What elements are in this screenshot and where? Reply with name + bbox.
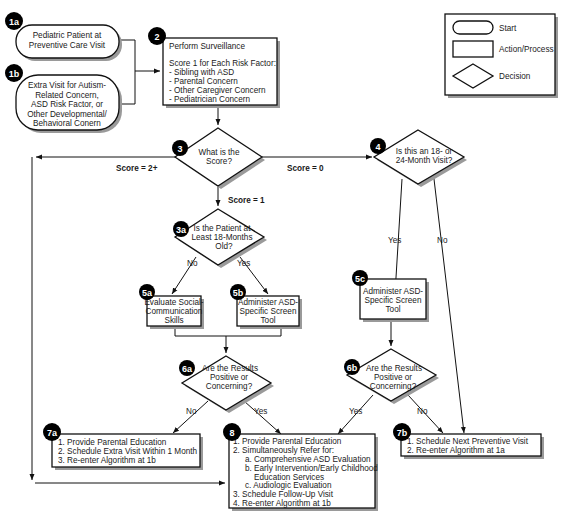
label-3a-no: No: [187, 259, 198, 268]
flowchart: Score = 2+ Score = 0 Score = 1 No Yes Ye…: [0, 0, 567, 520]
legend-action-label: Action/Process: [499, 45, 554, 54]
svg-text:Positive or: Positive or: [210, 373, 248, 382]
svg-text:Behavioral Conern: Behavioral Conern: [33, 119, 101, 128]
svg-text:Concerning?: Concerning?: [206, 382, 253, 391]
svg-text:8: 8: [229, 428, 234, 438]
svg-text:1. Schedule Next Preventive V: 1. Schedule Next Preventive Visit: [407, 437, 529, 446]
svg-text:- Sibling with ASD: - Sibling with ASD: [169, 68, 234, 77]
svg-text:3: 3: [177, 144, 182, 154]
node-3-decision-score: What is the Score? 3: [172, 128, 265, 189]
svg-text:Specific Screen: Specific Screen: [365, 296, 422, 305]
svg-text:1b: 1b: [9, 69, 20, 79]
svg-text:2: 2: [154, 32, 159, 42]
node-6b-decision-results: Are the Results Positive or Concerning? …: [344, 349, 439, 404]
legend-start-label: Start: [499, 24, 517, 33]
svg-text:7a: 7a: [47, 428, 58, 438]
node-1a-start: Pediatric Patient at Preventive Care Vis…: [5, 12, 122, 61]
svg-text:5b: 5b: [233, 288, 244, 298]
svg-text:4: 4: [375, 142, 380, 152]
svg-text:Old?: Old?: [215, 242, 233, 251]
svg-text:- Pediatrician Concern: - Pediatrician Concern: [169, 95, 250, 104]
svg-text:Pediatric Patient at: Pediatric Patient at: [33, 31, 102, 40]
node-5a-evaluate: Evaluate Social- Communication Skills 5a: [139, 284, 204, 329]
svg-text:1. Provide Parental Education: 1. Provide Parental Education: [58, 438, 167, 447]
svg-text:Administer ASD-: Administer ASD-: [363, 287, 423, 296]
svg-text:Is this an 18- or: Is this an 18- or: [396, 147, 453, 156]
svg-text:4. Re-enter Algorithm at 1b: 4. Re-enter Algorithm at 1b: [233, 499, 331, 508]
node-7b-next-visit: 1. Schedule Next Preventive Visit 2. Re-…: [393, 423, 544, 459]
svg-text:a. Comprehensive ASD Evaluatio: a. Comprehensive ASD Evaluation: [245, 455, 371, 464]
legend-decision-label: Decision: [499, 72, 531, 81]
label-6b-yes: Yes: [349, 407, 362, 416]
svg-text:1. Provide Parental Education: 1. Provide Parental Education: [233, 437, 342, 446]
svg-text:Are the Results: Are the Results: [366, 364, 422, 373]
svg-text:Preventive Care Visit: Preventive Care Visit: [29, 41, 106, 50]
node-5c-screen-tool: Administer ASD- Specific Screen Tool 5c: [352, 270, 429, 322]
svg-text:Tool: Tool: [385, 305, 400, 314]
svg-text:3. Re-enter Algorithm at 1b: 3. Re-enter Algorithm at 1b: [58, 456, 156, 465]
svg-text:24-Month Visit?: 24-Month Visit?: [396, 156, 453, 165]
svg-text:Evaluate Social-: Evaluate Social-: [144, 298, 203, 307]
svg-text:7b: 7b: [397, 428, 408, 438]
node-1b-start: Extra Visit for Autism- Related Concern,…: [5, 64, 122, 133]
node-7a-parental-education: 1. Provide Parental Education 2. Schedul…: [43, 423, 203, 470]
legend-action-icon: [453, 41, 493, 57]
label-score-2plus: Score = 2+: [116, 164, 158, 173]
node-8-refer: 1. Provide Parental Education 2. Simulta…: [223, 423, 378, 511]
connector-4-no: [434, 179, 464, 433]
svg-text:3a: 3a: [176, 225, 187, 235]
svg-text:Communication: Communication: [146, 307, 203, 316]
svg-text:Other Developmental/: Other Developmental/: [27, 110, 107, 119]
svg-text:Administer ASD-: Administer ASD-: [238, 298, 298, 307]
svg-text:Is the Patient at: Is the Patient at: [194, 224, 252, 233]
svg-text:2. Simultaneously Refer for:: 2. Simultaneously Refer for:: [233, 446, 334, 455]
connector-6a-yes: [244, 401, 281, 434]
label-4-no: No: [437, 236, 448, 245]
label-score-0: Score = 0: [287, 164, 324, 173]
svg-text:2. Schedule Extra Visit Withi: 2. Schedule Extra Visit Within 1 Month: [58, 447, 198, 456]
svg-text:Least 18-Months: Least 18-Months: [192, 233, 253, 242]
label-6a-no: No: [186, 407, 197, 416]
svg-text:c. Audiologic Evaluation: c. Audiologic Evaluation: [245, 481, 332, 490]
svg-text:1a: 1a: [9, 17, 20, 27]
svg-text:2. Re-enter Algorithm at 1a: 2. Re-enter Algorithm at 1a: [407, 446, 505, 455]
svg-text:3. Schedule Follow-Up Visit: 3. Schedule Follow-Up Visit: [233, 490, 334, 499]
legend-start-icon: [453, 21, 493, 34]
svg-text:Specific Screen: Specific Screen: [240, 307, 297, 316]
svg-text:What is the: What is the: [199, 148, 240, 157]
connector-6a-no: [173, 401, 208, 433]
svg-text:Tool: Tool: [260, 316, 275, 325]
svg-text:Positive or: Positive or: [374, 373, 412, 382]
svg-text:5a: 5a: [142, 288, 153, 298]
node-6a-decision-results: Are the Results Positive or Concerning? …: [179, 356, 274, 413]
svg-text:Concerning?: Concerning?: [370, 382, 417, 391]
svg-text:5c: 5c: [355, 274, 365, 284]
legend: Start Action/Process Decision: [445, 14, 558, 98]
svg-text:- Parental Concern: - Parental Concern: [169, 77, 238, 86]
svg-text:6b: 6b: [347, 363, 358, 373]
svg-text:6a: 6a: [182, 364, 193, 374]
label-6a-yes: Yes: [254, 407, 267, 416]
svg-text:- Other Caregiver Concern: - Other Caregiver Concern: [169, 86, 266, 95]
svg-text:Related Concern,: Related Concern,: [35, 91, 99, 100]
label-6b-no: No: [417, 407, 428, 416]
svg-text:Extra Visit for Autism-: Extra Visit for Autism-: [28, 81, 106, 90]
label-3a-yes: Yes: [237, 259, 250, 268]
svg-text:Skills: Skills: [164, 316, 183, 325]
node-4-decision-visit: Is this an 18- or 24-Month Visit? 4: [370, 130, 467, 187]
svg-text:Perform Surveillance: Perform Surveillance: [169, 42, 245, 51]
svg-text:Score?: Score?: [206, 157, 232, 166]
svg-text:ASD Risk Factor, or: ASD Risk Factor, or: [31, 100, 103, 109]
label-score-1: Score = 1: [228, 196, 265, 205]
svg-text:Are the Results: Are the Results: [202, 364, 258, 373]
svg-text:Score 1 for Each Risk Factor:: Score 1 for Each Risk Factor:: [169, 59, 276, 68]
node-2-surveillance: Perform Surveillance Score 1 for Each Ri…: [148, 27, 280, 108]
label-4-yes: Yes: [388, 236, 401, 245]
